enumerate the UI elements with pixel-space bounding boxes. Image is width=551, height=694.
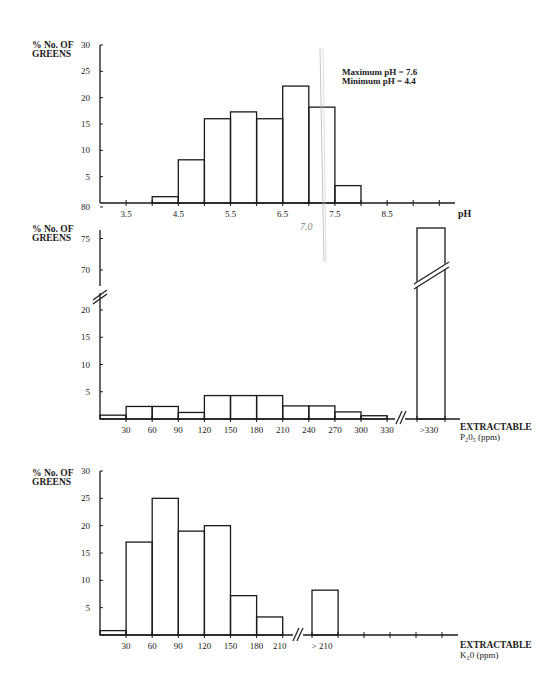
y-tick-label: 5 (86, 387, 91, 397)
histogram-bar (152, 197, 178, 203)
histogram-bar (283, 406, 309, 419)
x-tick-label: > 210 (312, 641, 333, 651)
histogram-bar (257, 119, 283, 203)
histogram-bar (204, 526, 230, 635)
x-tick-label: 60 (148, 641, 158, 651)
y-tick-label: 25 (81, 66, 91, 76)
chart-page: % No. OF GREENS 51015202530 3.54.55.56.5… (0, 0, 551, 694)
histogram-bar (283, 86, 309, 203)
handwritten-note: 7.0 (300, 221, 313, 232)
y-tick-label: 70 (81, 265, 91, 275)
x-axis-label-line1: EXTRACTABLE (460, 422, 532, 432)
histogram-bar (152, 498, 178, 635)
bars (152, 86, 361, 203)
x-tick-label: 210 (276, 425, 290, 435)
k2o-histogram: % No. OF GREENS 51015202530 306090120150… (32, 466, 532, 660)
y-tick-label: 15 (81, 332, 91, 342)
x-tick-label: >330 (420, 425, 439, 435)
x-tick-label: 4.5 (173, 209, 185, 219)
histogram-bar (204, 396, 230, 419)
histogram-bar-gt330 (417, 228, 445, 419)
y-tick-label: 30 (81, 40, 91, 50)
x-tick-label: 90 (174, 425, 184, 435)
y-tick-label: 5 (86, 172, 91, 182)
histogram-bar (231, 596, 257, 635)
x-axis: 3.54.55.56.57.58.5 (100, 200, 455, 219)
y-axis: 51015202530 (81, 40, 103, 203)
y-tick-label: 15 (81, 119, 91, 129)
y-tick-label: 25 (81, 493, 91, 503)
ph-histogram: % No. OF GREENS 51015202530 3.54.55.56.5… (32, 40, 472, 262)
p2o5-histogram: % No. OF GREENS 5101520707580 3060901201… (32, 202, 532, 442)
x-tick-label: 3.5 (120, 209, 132, 219)
y-tick-label: 10 (81, 145, 91, 155)
x-tick-label: 150 (224, 425, 238, 435)
x-axis-label-line2: P₂0₅ (ppm) (460, 432, 500, 442)
y-tick-label: 20 (81, 93, 91, 103)
y-tick-label: 15 (81, 548, 91, 558)
x-tick-label: 300 (354, 425, 368, 435)
histogram-bar (335, 186, 361, 203)
y-axis: 5101520707580 (81, 202, 107, 419)
y-axis-label-line2: GREENS (32, 477, 71, 487)
histogram-bar (257, 396, 283, 419)
histogram-bar (309, 406, 335, 419)
y-axis-label-line2: GREENS (32, 49, 71, 59)
x-axis-label: pH (458, 208, 472, 219)
histogram-bar (178, 531, 204, 635)
x-tick-label: 150 (224, 641, 238, 651)
histogram-bar (152, 406, 178, 419)
x-tick-label: 30 (122, 425, 132, 435)
histogram-bar (231, 396, 257, 419)
x-tick-label: 180 (250, 425, 264, 435)
y-tick-label: 10 (81, 360, 91, 370)
histogram-bar (335, 412, 361, 419)
bars (100, 228, 449, 419)
histogram-bar (178, 160, 204, 203)
x-axis: 306090120150180210240270300330>330 (100, 411, 460, 435)
bars (100, 498, 338, 635)
x-tick-label: 7.5 (329, 209, 341, 219)
x-tick-label: 120 (198, 425, 212, 435)
histogram-bar (204, 119, 230, 203)
x-axis-label-line2: K₂0 (ppm) (460, 650, 498, 660)
histogram-bar (126, 406, 152, 419)
y-tick-label: 30 (81, 466, 91, 476)
x-tick-label: 60 (148, 425, 158, 435)
y-tick-label: 5 (86, 603, 91, 613)
x-axis: 306090120150180210> 210 (100, 628, 458, 651)
x-tick-label: 240 (302, 425, 316, 435)
histogram-bar (312, 590, 338, 635)
x-tick-label: 6.5 (277, 209, 289, 219)
y-axis-label-line2: GREENS (32, 233, 71, 243)
x-tick-label: 8.5 (381, 209, 393, 219)
annotation-min-ph: Minimum pH = 4.4 (342, 76, 416, 86)
histogram-bar (178, 412, 204, 419)
y-tick-label: 20 (81, 305, 91, 315)
x-tick-label: 210 (273, 641, 287, 651)
histogram-bar (126, 542, 152, 635)
y-tick-label: 10 (81, 575, 91, 585)
x-axis-label-line1: EXTRACTABLE (460, 640, 532, 650)
x-tick-label: 90 (174, 641, 184, 651)
x-tick-label: 120 (198, 641, 212, 651)
x-tick-label: 330 (380, 425, 394, 435)
x-tick-label: 5.5 (225, 209, 237, 219)
y-tick-label: 20 (81, 521, 91, 531)
histogram-bar (257, 617, 283, 635)
x-tick-label: 270 (328, 425, 342, 435)
y-tick-label: 80 (81, 202, 91, 212)
histogram-bar (231, 112, 257, 203)
pencil-annotation: 7.0 (300, 48, 326, 262)
y-axis: 51015202530 (81, 466, 103, 635)
x-tick-label: 30 (122, 641, 132, 651)
x-tick-label: 180 (250, 641, 264, 651)
histogram-figure: % No. OF GREENS 51015202530 3.54.55.56.5… (0, 0, 551, 694)
y-tick-label: 75 (81, 234, 91, 244)
